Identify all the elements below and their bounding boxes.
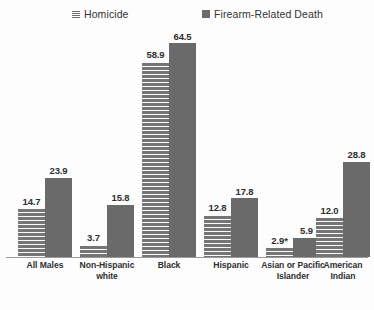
bar-group-american-indian: 12.0 28.8 <box>312 26 374 257</box>
bar-wrap-homicide: 2.9* <box>266 26 293 257</box>
x-axis-category-labels: All Males Non-Hispanic white Black Hispa… <box>0 260 374 308</box>
bar-group-all-males: 14.7 23.9 <box>14 26 76 257</box>
chart-legend: Homicide Firearm-Related Death <box>0 8 374 26</box>
bar-value-label: 12.8 <box>208 203 226 215</box>
bar-homicide <box>18 208 45 257</box>
bar-group-non-hispanic-white: 3.7 15.8 <box>76 26 138 257</box>
legend-label-firearm-related-death: Firearm-Related Death <box>214 8 323 20</box>
category-label-non-hispanic-white: Non-Hispanic white <box>76 260 138 282</box>
bar-wrap-homicide: 3.7 <box>80 26 107 257</box>
category-label-line: Hispanic <box>200 260 262 271</box>
category-label-black: Black <box>138 260 200 271</box>
bar-homicide <box>266 247 293 257</box>
category-label-american-indian: American Indian <box>312 260 374 282</box>
category-label-line: Indian <box>312 271 374 282</box>
bar-group-hispanic: 12.8 17.8 <box>200 26 262 257</box>
category-label-line: Non-Hispanic <box>76 260 138 271</box>
bar-wrap-homicide: 12.8 <box>204 26 231 257</box>
legend-label-homicide: Homicide <box>84 8 129 20</box>
bar-firearm-related-death <box>45 178 72 257</box>
category-label-line: Black <box>138 260 200 271</box>
bar-wrap-homicide: 12.0 <box>316 26 343 257</box>
bar-group-black: 58.9 64.5 <box>138 26 200 257</box>
bar-homicide <box>204 215 231 257</box>
bar-firearm-related-death <box>169 43 196 257</box>
bar-wrap-firearm: 28.8 <box>343 26 370 257</box>
bar-value-label: 15.8 <box>111 193 129 205</box>
category-label-line: American <box>312 260 374 271</box>
category-label-line: All Males <box>14 260 76 271</box>
bar-wrap-firearm: 64.5 <box>169 26 196 257</box>
bar-wrap-firearm: 23.9 <box>45 26 72 257</box>
bar-homicide <box>80 245 107 257</box>
x-axis-baseline <box>6 257 368 258</box>
solid-square-icon <box>202 10 210 18</box>
category-label-all-males: All Males <box>14 260 76 271</box>
bar-wrap-firearm: 17.8 <box>231 26 258 257</box>
category-label-hispanic: Hispanic <box>200 260 262 271</box>
bar-firearm-related-death <box>231 198 258 257</box>
bar-wrap-firearm: 15.8 <box>107 26 134 257</box>
bar-value-label: 2.9* <box>271 236 288 248</box>
bar-value-label: 17.8 <box>235 187 253 199</box>
bar-value-label: 28.8 <box>347 150 365 162</box>
bar-homicide <box>142 62 169 257</box>
bar-firearm-related-death <box>107 205 134 257</box>
bar-value-label: 14.7 <box>22 197 40 209</box>
bar-chart: Homicide Firearm-Related Death 14.7 23.9… <box>0 0 374 310</box>
plot-area: 14.7 23.9 3.7 15.8 58.9 <box>0 26 374 258</box>
bar-value-label: 3.7 <box>87 233 100 245</box>
bar-value-label: 12.0 <box>320 206 338 218</box>
bar-wrap-homicide: 58.9 <box>142 26 169 257</box>
bar-value-label: 64.5 <box>173 32 191 44</box>
category-label-line: white <box>76 271 138 282</box>
bar-value-label: 23.9 <box>49 166 67 178</box>
bar-homicide <box>316 217 343 257</box>
bar-wrap-homicide: 14.7 <box>18 26 45 257</box>
bar-value-label: 58.9 <box>146 50 164 62</box>
legend-item-firearm-related-death: Firearm-Related Death <box>202 8 323 20</box>
bar-value-label: 5.9 <box>300 226 313 238</box>
bar-firearm-related-death <box>343 162 370 257</box>
legend-item-homicide: Homicide <box>72 8 129 20</box>
hatched-square-icon <box>72 10 80 18</box>
